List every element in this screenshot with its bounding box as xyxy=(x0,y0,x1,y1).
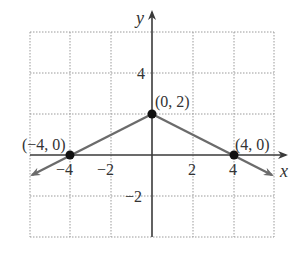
tick-y-neg2: −2 xyxy=(125,188,142,205)
point-label-right: (4, 0) xyxy=(235,136,270,154)
point-label-top: (0, 2) xyxy=(155,93,190,111)
y-axis-label: y xyxy=(134,8,144,28)
tick-x-4: 4 xyxy=(229,161,237,178)
tick-x-2: 2 xyxy=(188,161,196,178)
point-neg4-0 xyxy=(66,151,75,160)
point-0-2 xyxy=(148,110,157,119)
tick-x-neg2: −2 xyxy=(97,161,114,178)
tick-x-neg4: −4 xyxy=(56,161,73,178)
point-label-left: (−4, 0) xyxy=(22,136,66,154)
x-axis-label: x xyxy=(279,161,288,181)
coordinate-graph: x y −4 −2 2 4 4 −2 (−4, 0) (0, 2) (4, 0) xyxy=(0,0,307,255)
tick-y-4: 4 xyxy=(137,65,145,82)
